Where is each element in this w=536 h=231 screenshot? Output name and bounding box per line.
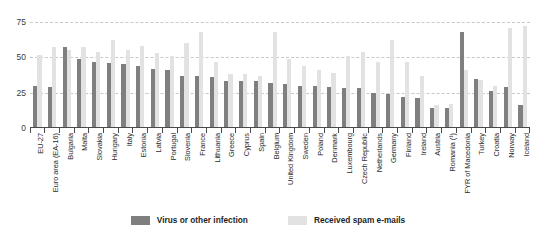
bar-spam (155, 53, 159, 128)
x-axis-label: Slovakia (96, 133, 103, 161)
x-axis-label: Austria (434, 133, 441, 156)
x-label-cell: Hungary (104, 133, 119, 203)
x-axis-label: Croatia (493, 133, 500, 156)
x-axis-label: Bulgaria (67, 133, 74, 160)
x-axis-label: Slovenia (184, 133, 191, 161)
x-axis-label: Italy (126, 133, 133, 146)
bar-group (89, 22, 104, 128)
y-tick-0: 0 (21, 123, 26, 133)
x-axis-label: Norway (508, 133, 515, 158)
legend-swatch-virus-icon (131, 216, 150, 225)
bar-spam (67, 50, 71, 128)
bar-group (339, 22, 354, 128)
bar-group (515, 22, 530, 128)
x-axis-label: France (199, 133, 206, 156)
bar-group (251, 22, 266, 128)
bar-spam (184, 43, 188, 128)
x-axis-label: Belgium (273, 133, 280, 159)
bar-spam (361, 52, 365, 128)
bar-group (74, 22, 89, 128)
x-label-cell: Lithuania (206, 133, 221, 203)
bar-spam (199, 32, 203, 128)
bar-group (442, 22, 457, 128)
x-label-cell: Euro area (EA-16) (45, 133, 60, 203)
x-axis-label: Sweden (302, 133, 309, 159)
bar-group (59, 22, 74, 128)
x-label-cell: Ireland (412, 133, 427, 203)
bar-group (162, 22, 177, 128)
x-axis-label: Ireland (420, 133, 427, 155)
plot-area (30, 22, 530, 128)
x-axis-label: Denmark (331, 133, 338, 163)
legend-swatch-spam-icon (288, 216, 307, 225)
x-label-cell: Czech Republic (353, 133, 368, 203)
bar-spam (228, 74, 232, 128)
bar-group (118, 22, 133, 128)
x-axis-label: Lithuania (214, 133, 221, 163)
bar-spam (478, 80, 482, 128)
bar-group (486, 22, 501, 128)
chart-legend: Virus or other infection Received spam e… (0, 215, 536, 225)
bar-group (206, 22, 221, 128)
bar-group (324, 22, 339, 128)
bar-spam (140, 46, 144, 128)
x-label-cell: Iceland (515, 133, 530, 203)
x-label-cell: France (192, 133, 207, 203)
bar-spam (523, 26, 527, 128)
x-axis-label: United Kingdom (287, 133, 294, 185)
x-label-cell: FYR of Macedonia (456, 133, 471, 203)
x-label-cell: Sweden (295, 133, 310, 203)
bar-group (30, 22, 45, 128)
bar-group (221, 22, 236, 128)
bar-spam (111, 40, 115, 128)
bar-spam (81, 47, 85, 128)
bar-spam (346, 56, 350, 128)
y-tick-75: 75 (17, 17, 26, 27)
x-axis-category-labels: EU-27Euro area (EA-16)BulgariaMaltaSlova… (30, 133, 530, 203)
x-label-cell: Luxembourg (339, 133, 354, 203)
bar-spam (243, 74, 247, 128)
bar-group (412, 22, 427, 128)
bar-group (236, 22, 251, 128)
legend-item-spam: Received spam e-mails (288, 215, 405, 225)
x-label-cell: Slovakia (89, 133, 104, 203)
x-label-cell: Poland (309, 133, 324, 203)
bar-spam (331, 73, 335, 128)
bar-spam (37, 55, 41, 128)
bar-spam (508, 28, 512, 128)
bar-group (309, 22, 324, 128)
x-axis-label: Hungary (111, 133, 118, 161)
bar-spam (449, 104, 453, 128)
bar-group (471, 22, 486, 128)
x-label-cell: Austria (427, 133, 442, 203)
x-axis-label: Greece (228, 133, 235, 157)
bar-spam (96, 52, 100, 128)
bar-group (177, 22, 192, 128)
x-axis-label: Germany (390, 133, 397, 163)
bar-groups (30, 22, 530, 128)
x-label-cell: EU-27 (30, 133, 45, 203)
bar-group (456, 22, 471, 128)
x-axis-label: Portugal (170, 133, 177, 160)
bar-spam (126, 50, 130, 128)
x-label-cell: Latvia (148, 133, 163, 203)
x-axis-label: Spain (258, 133, 265, 152)
bar-spam (376, 62, 380, 128)
x-label-cell: Croatia (486, 133, 501, 203)
x-label-cell: Estonia (133, 133, 148, 203)
y-tick-50: 50 (17, 52, 26, 62)
bar-spam (287, 59, 291, 128)
x-axis-label: Estonia (140, 133, 147, 157)
bar-spam (273, 32, 277, 128)
legend-label-spam: Received spam e-mails (314, 215, 405, 225)
bar-group (192, 22, 207, 128)
x-label-cell: United Kingdom (280, 133, 295, 203)
bar-group (368, 22, 383, 128)
x-label-cell: Bulgaria (59, 133, 74, 203)
y-tick-25: 25 (17, 88, 26, 98)
x-axis-label: Iceland (523, 133, 530, 156)
legend-item-virus: Virus or other infection (131, 215, 248, 225)
x-axis-label: Czech Republic (361, 133, 368, 184)
x-label-cell: Netherlands (368, 133, 383, 203)
bar-spam (52, 47, 56, 128)
